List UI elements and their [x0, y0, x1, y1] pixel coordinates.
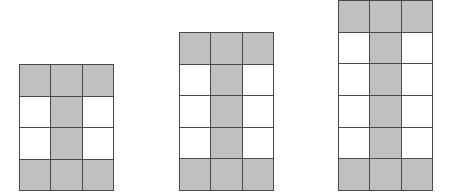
figure-1	[19, 64, 114, 191]
blank-cell-r3-c1	[339, 64, 369, 95]
figure-3	[338, 0, 433, 191]
shaded-cell-r6-c3	[402, 159, 432, 190]
shaded-cell-r3-c2	[370, 64, 400, 95]
shaded-cell-r2-c2	[370, 33, 400, 64]
blank-cell-r2-c3	[243, 65, 273, 96]
shaded-cell-r1-c2	[51, 65, 81, 96]
shaded-cell-r5-c2	[370, 128, 400, 159]
shaded-cell-r1-c1	[339, 1, 369, 32]
shaded-cell-r4-c2	[211, 128, 241, 159]
blank-cell-r2-c1	[20, 97, 50, 128]
shaded-cell-r4-c2	[51, 160, 81, 191]
blank-cell-r2-c1	[339, 33, 369, 64]
shaded-cell-r4-c3	[83, 160, 113, 191]
shaded-cell-r2-c2	[51, 97, 81, 128]
shaded-cell-r1-c2	[370, 1, 400, 32]
blank-cell-r3-c1	[20, 128, 50, 159]
blank-cell-r2-c3	[402, 33, 432, 64]
shaded-cell-r1-c3	[83, 65, 113, 96]
shaded-cell-r1-c2	[211, 33, 241, 64]
shaded-cell-r5-c3	[243, 159, 273, 190]
blank-cell-r3-c3	[402, 64, 432, 95]
shaded-cell-r4-c2	[370, 96, 400, 127]
blank-cell-r3-c3	[83, 128, 113, 159]
blank-cell-r4-c1	[339, 96, 369, 127]
blank-cell-r4-c3	[243, 128, 273, 159]
blank-cell-r3-c3	[243, 96, 273, 127]
figure-2	[179, 32, 274, 191]
blank-cell-r5-c3	[402, 128, 432, 159]
blank-cell-r4-c1	[180, 128, 210, 159]
shaded-cell-r1-c1	[180, 33, 210, 64]
shaded-cell-r6-c1	[339, 159, 369, 190]
shaded-cell-r5-c2	[211, 159, 241, 190]
shaded-cell-r3-c2	[51, 128, 81, 159]
blank-cell-r3-c1	[180, 96, 210, 127]
shaded-cell-r4-c1	[20, 160, 50, 191]
shaded-cell-r1-c3	[243, 33, 273, 64]
shaded-cell-r6-c2	[370, 159, 400, 190]
shaded-cell-r3-c2	[211, 96, 241, 127]
shaded-cell-r2-c2	[211, 65, 241, 96]
blank-cell-r5-c1	[339, 128, 369, 159]
shaded-cell-r1-c3	[402, 1, 432, 32]
blank-cell-r2-c3	[83, 97, 113, 128]
blank-cell-r2-c1	[180, 65, 210, 96]
blank-cell-r4-c3	[402, 96, 432, 127]
shaded-cell-r1-c1	[20, 65, 50, 96]
shaded-cell-r5-c1	[180, 159, 210, 190]
